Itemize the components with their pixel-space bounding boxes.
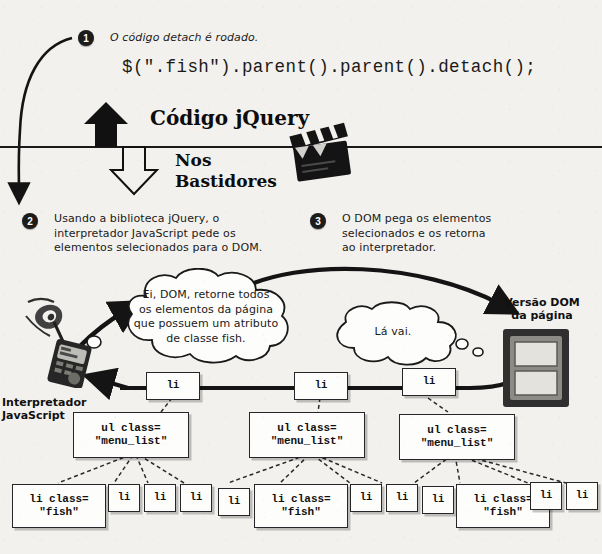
step-3-line-1: O DOM pega os elementos	[342, 212, 572, 227]
dash-ul2-leaf2	[280, 455, 309, 483]
tree-leaf-node: li	[108, 484, 140, 512]
reply-bubble-text: Lá vai.	[334, 325, 452, 340]
tree-ul-line1: ul class=	[427, 424, 486, 438]
flow-arrow-step1	[19, 38, 72, 190]
tree-leaf-node-fish: li class= "fish"	[254, 484, 348, 528]
interpreter-label-line2: JavaScript	[2, 409, 82, 422]
step-2-line-1: Usando a biblioteca jQuery, o	[54, 212, 304, 227]
arrow-layer	[0, 0, 602, 554]
walkie-talkie-icon	[14, 296, 100, 388]
dash-ul2-leaf4	[316, 455, 382, 483]
tree-leaf-line2: "fish"	[483, 506, 523, 520]
request-bubble-line-4: de classe fish.	[122, 332, 290, 347]
tree-ul-line2: "menu_list"	[271, 435, 344, 449]
tree-ul-node: ul class= "menu_list"	[249, 412, 365, 458]
step-2-text: Usando a biblioteca jQuery, o interpreta…	[54, 212, 304, 256]
arrow-return-head	[104, 381, 128, 388]
heading-codigo-jquery: Código jQuery	[150, 108, 309, 128]
tree-ul-line1: ul class=	[101, 422, 160, 436]
tree-leaf-node: li	[218, 488, 250, 516]
dash-li-ul-2	[318, 398, 320, 412]
step-badge-2: 2	[22, 213, 38, 229]
heading-nos: Nos	[175, 152, 211, 169]
dom-version-line2: da página	[492, 309, 592, 322]
dash-ul2-leaf1	[228, 455, 306, 483]
tree-leaf-line1: li class=	[29, 493, 88, 507]
tree-ul-line2: "menu_list"	[95, 435, 168, 449]
step-3-line-3: ao interpretador.	[342, 241, 572, 256]
tree-li-node: li	[294, 372, 348, 400]
tree-ul-line2: "menu_list"	[421, 437, 494, 451]
figure-canvas: 1 O código detach é rodado. $(".fish").p…	[0, 0, 602, 554]
tree-li-node: li	[146, 372, 200, 400]
tree-leaf-node: li	[566, 482, 598, 510]
step-2-line-3: elementos selecionados para o DOM.	[54, 241, 304, 256]
interpreter-label-line1: Interpretador	[2, 396, 82, 409]
reply-bubble-tail-dots	[452, 336, 492, 364]
window-frame-icon	[500, 326, 574, 410]
step-badge-3: 3	[310, 213, 326, 229]
dash-li-ul-3	[428, 398, 448, 412]
heading-bastidores: Bastidores	[175, 173, 277, 190]
step-3-line-2: selecionados e os retorna	[342, 227, 572, 242]
clapperboard-icon	[288, 122, 356, 184]
dom-version-line1: Versão DOM	[492, 296, 592, 309]
tree-ul-line1: ul class=	[277, 422, 336, 436]
tree-ul-node: ul class= "menu_list"	[399, 414, 515, 460]
request-bubble-text: Ei, DOM, retorne todos os elementos da p…	[122, 288, 290, 346]
tree-ul-node: ul class= "menu_list"	[73, 412, 189, 458]
tree-leaf-line2: "fish"	[281, 506, 321, 520]
tree-leaf-line1: li class=	[271, 493, 330, 507]
request-bubble-line-1: Ei, DOM, retorne todos	[122, 288, 290, 303]
dash-ul1-leaf1	[58, 455, 130, 483]
tree-leaf-node: li	[350, 484, 382, 512]
tree-leaf-node: li	[422, 486, 454, 514]
tree-li-node: li	[402, 368, 456, 396]
tree-leaf-node: li	[180, 484, 212, 512]
dash-li-ul-1	[161, 398, 172, 412]
dash-ul1-leaf2	[114, 455, 133, 483]
request-bubble-line-3: que possuem um atributo	[122, 317, 290, 332]
tree-leaf-node-fish: li class= "fish"	[12, 484, 106, 528]
tree-leaf-node: li	[144, 484, 176, 512]
step-2-line-2: interpretador JavaScript pede os	[54, 227, 304, 242]
step-1-text: O código detach é rodado.	[110, 31, 410, 46]
tree-leaf-line1: li class=	[473, 493, 532, 507]
dash-ul2-leaf3	[313, 455, 350, 483]
tree-leaf-line2: "fish"	[39, 506, 79, 520]
up-arrow-icon	[78, 100, 134, 148]
down-arrow-icon	[104, 146, 164, 196]
step-3-text: O DOM pega os elementos selecionados e o…	[342, 212, 572, 256]
step-badge-1: 1	[78, 30, 94, 46]
dash-ul1-leaf4	[139, 455, 184, 483]
tree-leaf-node: li	[530, 482, 562, 510]
tree-leaf-node: li	[386, 484, 418, 512]
request-bubble-line-2: os elementos da página	[122, 303, 290, 318]
dom-version-label: Versão DOM da página	[492, 296, 592, 322]
interpreter-label: Interpretador JavaScript	[2, 396, 82, 422]
code-line: $(".fish").parent().parent().detach();	[122, 57, 536, 77]
